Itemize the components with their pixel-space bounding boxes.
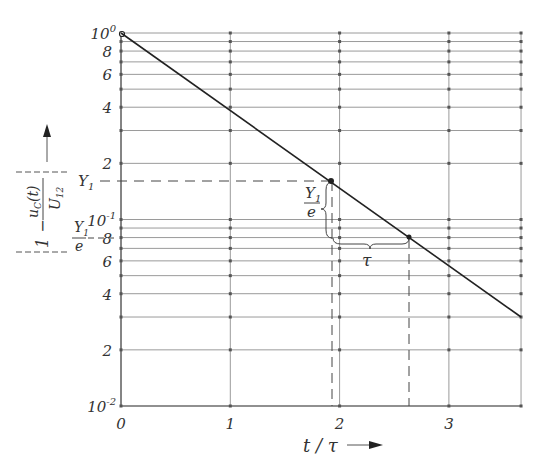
grid-intersection-dot (447, 88, 450, 91)
grid-intersection-dot (338, 292, 341, 295)
y-tick-label: 2 (101, 155, 112, 173)
grid-intersection-dot (520, 40, 523, 43)
grid-intersection-dot (229, 236, 232, 239)
grid-intersection-dot (229, 162, 232, 165)
grid (120, 32, 523, 408)
grid-intersection-dot (229, 274, 232, 277)
grid-intersection-dot (229, 40, 232, 43)
grid-intersection-dot (520, 129, 523, 132)
grid-intersection-dot (338, 129, 341, 132)
grid-intersection-dot (447, 348, 450, 351)
x-tick-label: 0 (116, 415, 126, 433)
horizontal-brace-icon (333, 238, 409, 249)
grid-intersection-dot (338, 348, 341, 351)
grid-intersection-dot (338, 60, 341, 63)
y-tick-label: 100 (91, 23, 117, 43)
vertical-brace-icon (321, 182, 332, 238)
y-tick-label: 8 (102, 230, 112, 248)
grid-intersection-dot (338, 227, 341, 230)
y-axis-numerator: uC(t) (25, 186, 43, 218)
x-tick-labels: 0123 (116, 415, 453, 433)
x-tick-label: 2 (334, 415, 345, 433)
grid-intersection-dot (447, 162, 450, 165)
grid-intersection-dot (520, 32, 523, 35)
grid-intersection-dot (338, 73, 341, 76)
grid-intersection-dot (229, 32, 232, 35)
y-axis-arrow-icon (43, 124, 51, 137)
log-decay-chart: 100864210-1864210-2 0123 Y1 e τ Y1 Y1 e (0, 0, 534, 466)
grid-intersection-dot (447, 274, 450, 277)
grid-intersection-dot (447, 316, 450, 319)
grid-intersection-dot (447, 247, 450, 250)
grid-intersection-dot (520, 73, 523, 76)
grid-intersection-dot (338, 236, 341, 239)
grid-intersection-dot (229, 227, 232, 230)
grid-intersection-dot (520, 259, 523, 262)
grid-intersection-dot (229, 259, 232, 262)
grid-intersection-dot (229, 218, 232, 221)
grid-intersection-dot (447, 129, 450, 132)
grid-intersection-dot (229, 129, 232, 132)
grid-intersection-dot (229, 73, 232, 76)
grid-intersection-dot (520, 106, 523, 109)
y-tick-label: 10-2 (87, 396, 116, 416)
grid-intersection-dot (447, 292, 450, 295)
grid-intersection-dot (447, 106, 450, 109)
tau-label: τ (362, 250, 372, 270)
x-tick-label: 3 (444, 415, 454, 433)
grid-intersection-dot (520, 227, 523, 230)
y1e-axis-label-den: e (75, 238, 83, 254)
grid-intersection-dot (338, 218, 341, 221)
grid-intersection-dot (229, 348, 232, 351)
grid-intersection-dot (447, 60, 450, 63)
grid-intersection-dot (229, 50, 232, 53)
grid-intersection-dot (229, 106, 232, 109)
x-axis-arrow-icon (369, 441, 383, 449)
y1e-brace-denominator: e (307, 203, 316, 221)
grid-intersection-dot (520, 162, 523, 165)
grid-intersection-dot (229, 247, 232, 250)
y-tick-label: 4 (101, 99, 112, 117)
grid-intersection-dot (520, 348, 523, 351)
y-axis-denominator: U12 (47, 186, 65, 210)
grid-intersection-dot (338, 259, 341, 262)
grid-intersection-dot (447, 259, 450, 262)
y-tick-label: 6 (102, 253, 112, 271)
y-tick-label: 4 (101, 286, 112, 304)
grid-intersection-dot (447, 50, 450, 53)
y1e-brace-label: Y1 (305, 184, 321, 204)
y-tick-label: 8 (102, 43, 112, 61)
grid-intersection-dot (338, 316, 341, 319)
grid-intersection-dot (520, 236, 523, 239)
x-axis-label: t / τ (303, 435, 339, 456)
grid-intersection-dot (447, 40, 450, 43)
y-tick-label: 2 (101, 342, 112, 360)
grid-intersection-dot (520, 50, 523, 53)
grid-intersection-dot (520, 247, 523, 250)
y-axis-label: 1 − uC(t) U12 (16, 172, 68, 252)
grid-intersection-dot (338, 162, 341, 165)
grid-intersection-dot (338, 106, 341, 109)
y-axis-one-minus: 1 − (33, 219, 52, 248)
grid-intersection-dot (520, 88, 523, 91)
grid-intersection-dot (520, 292, 523, 295)
grid-intersection-dot (447, 73, 450, 76)
grid-intersection-dot (229, 292, 232, 295)
grid-intersection-dot (447, 218, 450, 221)
grid-intersection-dot (520, 60, 523, 63)
grid-intersection-dot (447, 32, 450, 35)
grid-intersection-dot (229, 88, 232, 91)
grid-intersection-dot (520, 274, 523, 277)
grid-intersection-dot (338, 274, 341, 277)
grid-intersection-dot (338, 40, 341, 43)
grid-intersection-dot (338, 247, 341, 250)
y-tick-label: 10-1 (87, 210, 116, 230)
y1-axis-label: Y1 (78, 172, 94, 192)
data-line (121, 33, 521, 317)
grid-intersection-dot (338, 50, 341, 53)
grid-intersection-dot (229, 60, 232, 63)
grid-intersection-dot (447, 227, 450, 230)
grid-intersection-dot (338, 32, 341, 35)
y-tick-label: 6 (102, 66, 112, 84)
x-tick-label: 1 (226, 415, 236, 433)
